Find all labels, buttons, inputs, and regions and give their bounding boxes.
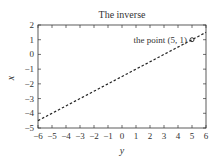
y-tick-label: 2	[30, 20, 35, 30]
y-tick-label: 0	[30, 49, 35, 59]
x-tick-label: 5	[190, 131, 195, 141]
x-tick-label: −2	[89, 131, 99, 141]
x-tick-label: 0	[120, 131, 125, 141]
y-tick-label: 1	[30, 35, 35, 45]
x-tick-label: −1	[103, 131, 113, 141]
point-annotation: the point (5, 1)	[134, 35, 188, 45]
chart: The inverse −6−5−4−3−2−10123456 −5−4−3−2…	[0, 0, 213, 165]
y-tick-label: −5	[24, 123, 34, 133]
y-tick-label: −3	[24, 94, 34, 104]
x-tick-label: −4	[61, 131, 71, 141]
x-tick-label: 4	[176, 131, 181, 141]
y-tick-label: −2	[24, 79, 34, 89]
chart-title: The inverse	[99, 9, 146, 20]
inverse-line	[38, 32, 206, 120]
series-layer: the point (5, 1)	[38, 32, 206, 120]
point-marker	[190, 38, 194, 42]
x-tick-label: 2	[148, 131, 153, 141]
y-axis-label: x	[5, 75, 16, 81]
x-tick-label: −6	[33, 131, 43, 141]
y-tick-label: −4	[24, 108, 34, 118]
x-tick-label: 6	[204, 131, 209, 141]
y-tick-label: −1	[24, 64, 34, 74]
x-tick-label: −5	[47, 131, 57, 141]
x-tick-label: 3	[162, 131, 167, 141]
x-axis-label: y	[119, 145, 125, 156]
x-tick-label: 1	[134, 131, 139, 141]
x-tick-label: −3	[75, 131, 85, 141]
